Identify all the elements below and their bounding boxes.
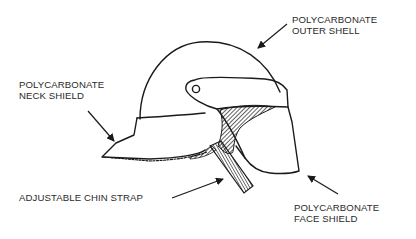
label-neck-shield-line2: NECK SHIELD (19, 90, 104, 101)
arrow-chin-strap (172, 179, 223, 198)
label-face-shield-line2: FACE SHIELD (294, 213, 379, 224)
label-chin-strap: ADJUSTABLE CHIN STRAP (19, 192, 143, 203)
inner-liner-hatched (218, 105, 275, 153)
label-outer-shell: POLYCARBONATE OUTER SHELL (292, 14, 377, 36)
label-outer-shell-line1: POLYCARBONATE (292, 14, 377, 25)
arrow-outer-shell (258, 24, 287, 48)
shell-brim-line (137, 113, 205, 118)
pivot-rivet (192, 85, 199, 92)
arrow-face-shield (308, 176, 338, 194)
helmet-diagram: POLYCARBONATE OUTER SHELL POLYCARBONATE … (0, 0, 416, 239)
label-face-shield: POLYCARBONATE FACE SHIELD (294, 202, 379, 224)
label-neck-shield-line1: POLYCARBONATE (19, 79, 104, 90)
label-neck-shield: POLYCARBONATE NECK SHIELD (19, 79, 104, 101)
neck-shield-outline (102, 118, 205, 159)
label-outer-shell-line2: OUTER SHELL (292, 25, 377, 36)
label-face-shield-line1: POLYCARBONATE (294, 202, 379, 213)
arrow-neck-shield (88, 111, 114, 141)
face-shield-pivot-bar (186, 78, 288, 109)
label-chin-strap-line1: ADJUSTABLE CHIN STRAP (19, 192, 143, 203)
